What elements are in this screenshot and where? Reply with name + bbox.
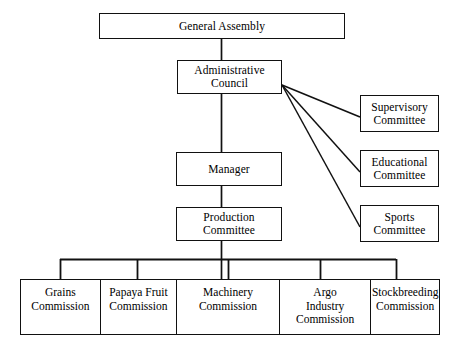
node-sports-committee[interactable]: Sports Committee (360, 205, 439, 242)
edge-council-to-supervisory (282, 85, 360, 117)
node-machinery-commission-label: Machinery Commission (199, 286, 257, 313)
node-administrative-council[interactable]: Administrative Council (177, 60, 282, 94)
node-argo-industry-commission[interactable]: Argo Industry Commission (280, 280, 372, 334)
node-general-assembly[interactable]: General Assembly (99, 13, 345, 39)
edge-council-to-educational (282, 85, 360, 172)
node-supervisory-committee[interactable]: Supervisory Committee (360, 95, 439, 132)
node-educational-committee[interactable]: Educational Committee (360, 150, 439, 187)
node-supervisory-committee-label: Supervisory Committee (368, 101, 431, 127)
node-stockbreeding-commission[interactable]: Stockbreeding Commission (371, 280, 439, 334)
org-chart-diagram: General Assembly Administrative Council … (0, 0, 464, 354)
node-manager[interactable]: Manager (176, 152, 282, 186)
node-machinery-commission[interactable]: Machinery Commission (177, 280, 280, 334)
node-manager-label: Manager (205, 163, 253, 176)
node-administrative-council-label: Administrative Council (191, 64, 267, 90)
node-stockbreeding-commission-label: Stockbreeding Commission (372, 286, 438, 313)
node-grains-commission[interactable]: Grains Commission (21, 280, 101, 334)
edge-council-to-sports (282, 85, 360, 227)
node-grains-commission-label: Grains Commission (31, 286, 89, 313)
node-production-committee-label: Production Committee (200, 211, 258, 237)
node-papaya-fruit-commission[interactable]: Papaya Fruit Commission (101, 280, 178, 334)
node-papaya-fruit-commission-label: Papaya Fruit Commission (109, 286, 167, 313)
node-argo-industry-commission-label: Argo Industry Commission (296, 286, 354, 327)
commission-row: Grains Commission Papaya Fruit Commissio… (20, 279, 440, 335)
node-sports-committee-label: Sports Committee (370, 211, 428, 237)
node-production-committee[interactable]: Production Committee (176, 207, 282, 241)
node-general-assembly-label: General Assembly (176, 20, 268, 33)
node-educational-committee-label: Educational Committee (368, 156, 430, 182)
